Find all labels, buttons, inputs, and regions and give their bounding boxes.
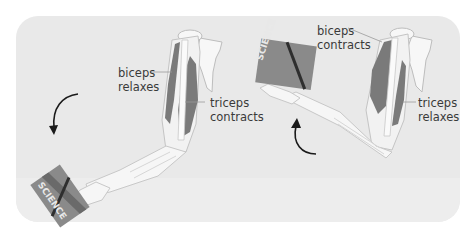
right-book: SCIENCE (251, 17, 319, 90)
left-biceps-label: biceps relaxes (118, 66, 159, 94)
right-triceps-label: triceps relaxes (418, 96, 459, 124)
curved-arrow-down-icon (54, 94, 78, 128)
left-book: SCIENCE (30, 164, 89, 227)
right-biceps-label: biceps contracts (317, 24, 371, 52)
left-triceps-label: triceps contracts (210, 96, 264, 124)
left-arm (70, 30, 222, 210)
curved-arrow-up-icon (295, 126, 316, 154)
